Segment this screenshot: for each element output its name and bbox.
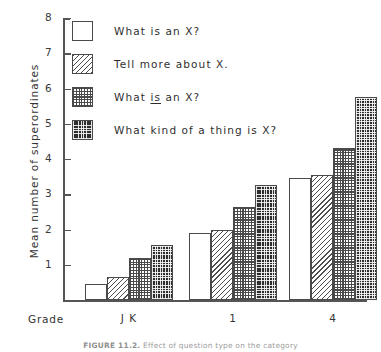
bar-grade1-series3	[233, 207, 255, 300]
x-group-label-grade1: 1	[229, 312, 237, 324]
legend-item-1: What is an X?	[72, 14, 362, 47]
legend-label-3: What is an X?	[114, 91, 200, 103]
y-tick-2	[64, 230, 71, 231]
x-group-label-grade4: 4	[329, 312, 337, 324]
y-tick-3	[64, 194, 71, 195]
x-axis-title: Grade	[28, 313, 64, 325]
bar-jk-series4	[151, 245, 173, 300]
bar-grade1-series2	[211, 230, 233, 301]
chart-legend: What is an X? Tell more about X. What is…	[72, 14, 362, 146]
y-tick-label-7: 7	[30, 46, 52, 58]
y-tick-4	[64, 159, 71, 160]
bar-grade4-series2	[311, 175, 333, 300]
bar-jk-series2	[107, 277, 129, 300]
legend-label-3-post: an X?	[161, 91, 200, 103]
legend-label-3-underlined: is	[150, 91, 161, 103]
y-tick-1	[64, 265, 71, 266]
legend-swatch-dark-checker-icon	[72, 120, 93, 140]
bar-grade4-series1	[289, 178, 311, 300]
y-tick-5	[64, 124, 71, 125]
bar-chart-figure: 8 7 6 5 4 3 2 1 Mean number of superordi…	[0, 0, 381, 352]
figure-caption: FIGURE 11.2. Effect of question type on …	[0, 341, 381, 350]
y-tick-7	[64, 53, 71, 54]
legend-label-3-pre: What	[114, 91, 150, 103]
x-group-label-jk: J K	[121, 312, 137, 324]
bar-grade4-series3	[333, 148, 355, 300]
y-tick-6	[64, 89, 71, 90]
legend-label-4: What kind of a thing is X?	[114, 124, 277, 136]
legend-item-3: What is an X?	[72, 80, 362, 113]
legend-swatch-open-icon	[72, 21, 93, 41]
bar-grade1-series4	[255, 185, 277, 300]
figure-number: FIGURE 11.2.	[83, 341, 140, 350]
legend-swatch-light-checker-icon	[72, 87, 93, 107]
legend-label-1: What is an X?	[114, 25, 200, 37]
y-axis-title: Mean number of superordinates	[28, 61, 40, 261]
figure-caption-text: Effect of question type on the category	[143, 341, 298, 350]
x-axis-line	[63, 300, 367, 302]
y-tick-label-8: 8	[30, 11, 52, 23]
bar-jk-series1	[85, 284, 107, 300]
legend-item-2: Tell more about X.	[72, 47, 362, 80]
legend-swatch-hatch-icon	[72, 54, 93, 74]
bar-jk-series3	[129, 258, 151, 300]
y-tick-8	[64, 18, 71, 19]
legend-item-4: What kind of a thing is X?	[72, 113, 362, 146]
legend-label-2: Tell more about X.	[114, 58, 229, 70]
bar-grade1-series1	[189, 233, 211, 300]
